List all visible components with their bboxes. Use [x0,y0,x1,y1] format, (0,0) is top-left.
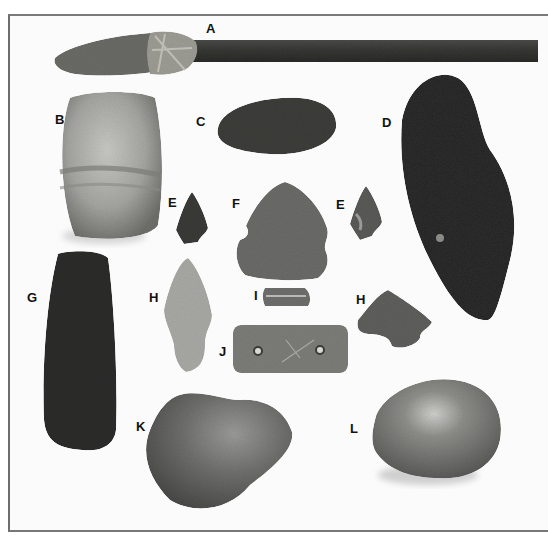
label-g: G [27,291,37,304]
artifact-e-arrowhead-right [350,186,382,240]
label-l: L [350,422,358,435]
label-f: F [232,197,240,210]
artifact-f-large-point [237,182,328,280]
artifact-h-stemmed-point [164,258,212,372]
label-d: D [382,116,391,129]
artifact-g-celt [44,251,117,450]
artifact-i-bead [263,288,310,306]
artifact-c-oval-blade [218,98,337,154]
artifact-l-oval-stone [372,379,501,485]
artifact-h-notched-arrowhead [358,290,432,348]
artifact-d-pestle-stone [401,75,514,320]
label-b: B [55,113,64,126]
label-j: J [219,345,226,358]
artifact-b-grooved-stone [60,92,162,244]
artifact-k-hammerstone [146,393,292,508]
label-e-left: E [168,196,177,209]
label-k: K [136,420,145,433]
artifact-e-arrowhead-left [176,192,208,244]
artifact-a-spear [54,32,538,76]
label-e-right: E [336,198,345,211]
label-h-left: H [149,291,158,304]
label-c: C [196,115,205,128]
label-i: I [254,289,258,302]
label-h-right: H [356,293,365,306]
artifact-j-gorget [233,325,348,373]
label-a: A [206,22,215,35]
